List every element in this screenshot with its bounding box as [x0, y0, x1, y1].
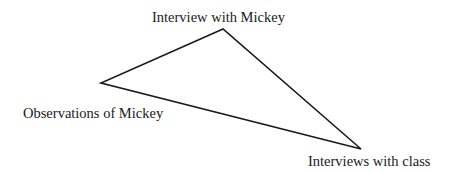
vertex-label-interviews-with-class: Interviews with class — [308, 154, 430, 169]
triangle-outline — [101, 29, 361, 149]
vertex-label-observations-of-mickey: Observations of Mickey — [23, 106, 163, 121]
triangle-shape — [0, 0, 459, 173]
vertex-label-interview-with-mickey: Interview with Mickey — [152, 10, 285, 25]
triangulation-diagram: Interview with Mickey Observations of Mi… — [0, 0, 459, 173]
